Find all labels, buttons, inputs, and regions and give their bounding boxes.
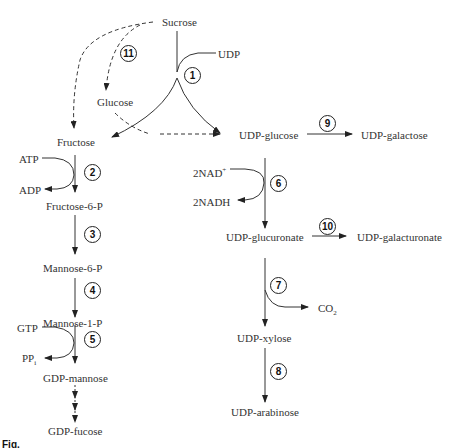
step-6-badge: 6 xyxy=(270,175,287,192)
step-9-badge: 9 xyxy=(319,115,336,132)
step-8-badge: 8 xyxy=(270,363,287,380)
node-2nadh: 2NADH xyxy=(193,196,230,208)
step-1-badge: 1 xyxy=(184,67,201,84)
node-gdp-mannose: GDP-mannose xyxy=(43,372,108,384)
node-sucrose: Sucrose xyxy=(162,16,197,28)
step-5-badge: 5 xyxy=(84,331,101,348)
node-ppi: PPi xyxy=(22,352,36,369)
node-udp-glucuronate: UDP-glucuronate xyxy=(226,231,304,243)
node-gdp-fucose: GDP-fucose xyxy=(48,425,102,437)
node-udp-arabinose: UDP-arabinose xyxy=(231,406,299,418)
node-fructose: Fructose xyxy=(57,136,95,148)
node-glucose: Glucose xyxy=(97,96,133,108)
node-udp-galacturonate: UDP-galacturonate xyxy=(357,231,442,243)
step-7-badge: 7 xyxy=(270,277,287,294)
step-4-badge: 4 xyxy=(84,282,101,299)
node-udp-glucose: UDP-glucose xyxy=(239,129,298,141)
node-2nad: 2NAD+ xyxy=(193,164,226,179)
node-atp: ATP xyxy=(19,153,39,165)
node-adp: ADP xyxy=(19,184,41,196)
node-co2: CO2 xyxy=(318,302,337,319)
node-mannose-6-p: Mannose-6-P xyxy=(43,262,102,274)
step-10-badge: 10 xyxy=(319,218,336,235)
node-mannose-1-p: Mannose-1-P xyxy=(43,317,102,329)
node-udp-galactose: UDP-galactose xyxy=(361,129,428,141)
pathway-diagram: Sucrose UDP Glucose Fructose UDP-glucose… xyxy=(0,0,458,448)
step-2-badge: 2 xyxy=(84,164,101,181)
node-fructose-6-p: Fructose-6-P xyxy=(46,200,103,212)
step-11-badge: 11 xyxy=(120,45,137,62)
figure-caption: Fig. xyxy=(2,439,20,448)
step-3-badge: 3 xyxy=(84,226,101,243)
node-udp: UDP xyxy=(218,48,240,60)
node-gtp: GTP xyxy=(17,322,38,334)
node-udp-xylose: UDP-xylose xyxy=(237,332,291,344)
